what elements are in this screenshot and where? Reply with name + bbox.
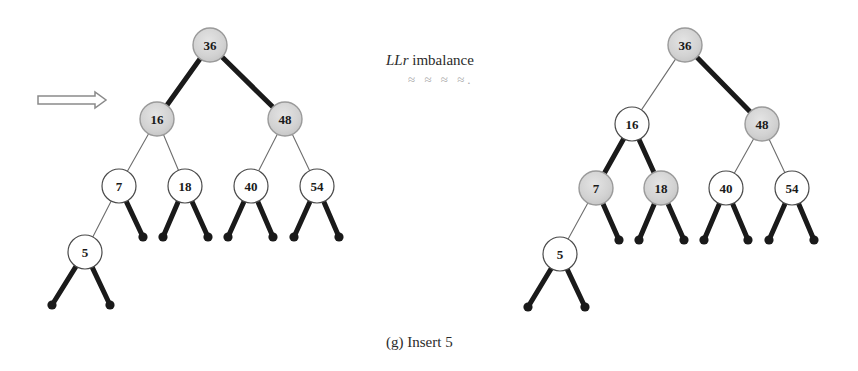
- tree-edge-16-18: [164, 135, 179, 171]
- external-leaf-node: [699, 235, 708, 244]
- leaf-stub-edge: [799, 204, 814, 240]
- tree-node-18[interactable]: 18: [644, 171, 678, 205]
- imbalance-word-label: imbalance: [409, 52, 474, 68]
- leaf-stub-edge: [126, 201, 143, 237]
- external-leaf-node: [334, 232, 343, 241]
- tree-edge-16-18: [639, 139, 654, 172]
- tree-edge-48-54: [769, 139, 785, 172]
- external-leaf-node: [634, 235, 643, 244]
- leaf-stub-edge: [733, 204, 748, 240]
- tree-node-40[interactable]: 40: [234, 169, 268, 203]
- external-leaf-node: [809, 235, 818, 244]
- node-key-label: 18: [655, 181, 669, 196]
- tree-edge-16-7: [604, 139, 623, 173]
- leaf-stub-edge: [603, 204, 619, 240]
- node-key-label: 36: [204, 38, 218, 53]
- tree-node-48[interactable]: 48: [745, 107, 779, 141]
- external-leaf-node: [203, 232, 212, 241]
- node-key-label: 5: [557, 247, 564, 262]
- node-key-label: 7: [116, 179, 123, 194]
- transform-arrow: [38, 92, 106, 108]
- tree-node-36[interactable]: 36: [193, 28, 227, 62]
- node-key-label: 48: [756, 117, 770, 132]
- node-key-label: 40: [720, 181, 733, 196]
- arrow-outline: [38, 92, 106, 108]
- tree-edge-36-16: [641, 59, 675, 110]
- tree-node-5[interactable]: 5: [543, 237, 577, 271]
- tree-node-7[interactable]: 7: [579, 171, 613, 205]
- node-key-label: 18: [179, 179, 193, 194]
- imbalance-type-label: LLr: [386, 52, 409, 68]
- leaf-stub-edge: [92, 267, 110, 305]
- after-tree: 36164871840545: [523, 28, 818, 312]
- external-leaf-node: [223, 232, 232, 241]
- leaf-stub-edge: [567, 269, 585, 307]
- figure-caption: (g) Insert 5: [386, 334, 453, 351]
- external-leaf-node: [289, 232, 298, 241]
- leaf-stub-edge: [528, 269, 551, 307]
- node-key-label: 54: [311, 179, 325, 194]
- node-key-label: 36: [679, 38, 693, 53]
- node-key-label: 40: [245, 179, 258, 194]
- tree-node-40[interactable]: 40: [709, 171, 743, 205]
- tree-node-36[interactable]: 36: [668, 28, 702, 62]
- leaf-stub-edge: [668, 204, 684, 240]
- tree-node-16[interactable]: 16: [140, 102, 174, 136]
- leaf-stub-edge: [704, 204, 719, 240]
- scan-smudge-marks: ≈ ≈ ≈ ≈.: [408, 72, 474, 88]
- external-leaf-node: [580, 302, 589, 311]
- external-leaf-node: [105, 300, 114, 309]
- tree-edge-36-16: [167, 59, 200, 105]
- external-leaf-node: [523, 302, 532, 311]
- imbalance-annotation: LLr imbalance: [386, 52, 474, 69]
- tree-node-16[interactable]: 16: [615, 107, 649, 141]
- tree-node-7[interactable]: 7: [102, 169, 136, 203]
- tree-node-54[interactable]: 54: [300, 169, 334, 203]
- node-key-label: 48: [279, 112, 293, 127]
- leaf-stub-edge: [228, 201, 244, 237]
- external-leaf-node: [764, 235, 773, 244]
- external-leaf-node: [158, 232, 167, 241]
- tree-edge-48-40: [734, 139, 753, 173]
- external-leaf-node: [743, 235, 752, 244]
- node-key-label: 16: [151, 112, 165, 127]
- tree-node-48[interactable]: 48: [268, 102, 302, 136]
- tree-edge-7-5: [93, 201, 111, 237]
- tree-node-18[interactable]: 18: [168, 169, 202, 203]
- leaf-stub-edge: [258, 202, 273, 237]
- tree-edge-36-48: [697, 57, 750, 112]
- node-key-label: 7: [593, 181, 600, 196]
- leaf-stub-edge: [769, 204, 785, 240]
- tree-edge-48-54: [292, 134, 309, 170]
- tree-node-5[interactable]: 5: [68, 235, 102, 269]
- tree-edge-7-5: [568, 203, 588, 239]
- external-leaf-node: [679, 235, 688, 244]
- node-key-label: 16: [626, 117, 640, 132]
- external-leaf-node: [138, 232, 147, 241]
- avl-rotation-figure: 3616487184054536164871840545 LLr imbalan…: [0, 0, 858, 371]
- external-leaf-node: [614, 235, 623, 244]
- tree-node-54[interactable]: 54: [775, 171, 809, 205]
- tree-edge-16-7: [127, 134, 148, 171]
- leaf-stub-edge: [52, 266, 76, 305]
- node-key-label: 5: [82, 245, 89, 260]
- external-leaf-node: [47, 300, 56, 309]
- tree-edge-48-40: [259, 134, 278, 171]
- tree-edge-36-48: [222, 57, 273, 107]
- node-key-label: 54: [786, 181, 800, 196]
- leaf-stub-edge: [639, 204, 654, 240]
- leaf-stub-edge: [324, 202, 339, 237]
- leaf-stub-edge: [163, 202, 178, 237]
- external-leaf-node: [268, 232, 277, 241]
- leaf-stub-edge: [192, 201, 208, 237]
- leaf-stub-edge: [294, 201, 310, 237]
- before-tree: 36164871840545: [47, 28, 343, 310]
